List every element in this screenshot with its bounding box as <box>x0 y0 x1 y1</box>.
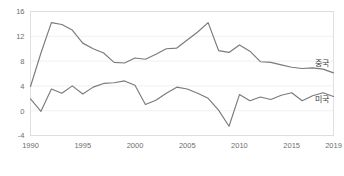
x-tick-label: 1995 <box>74 141 91 150</box>
x-tick-label: 2000 <box>127 141 144 150</box>
x-tick-label: 2015 <box>283 141 300 150</box>
x-tick-label: 2019 <box>325 141 342 150</box>
x-tick-label: 2010 <box>231 141 248 150</box>
chart-canvas: 1612840-4 1990199520002005201020152019 중… <box>0 0 344 176</box>
y-tick-label: 12 <box>16 32 24 41</box>
y-tick-label: 16 <box>16 7 24 16</box>
series-label-중국: 중국 <box>315 59 329 68</box>
y-tick-label: 0 <box>20 107 24 116</box>
gdp-growth-line-chart: 1612840-4 1990199520002005201020152019 중… <box>0 0 344 176</box>
y-tick-label: -4 <box>18 131 25 140</box>
x-tick-label: 2005 <box>179 141 196 150</box>
x-tick-label: 1990 <box>22 141 39 150</box>
plot-background <box>0 0 344 176</box>
y-tick-label: 8 <box>20 57 24 66</box>
y-tick-label: 4 <box>20 82 24 91</box>
series-label-미국: 미국 <box>315 95 329 104</box>
